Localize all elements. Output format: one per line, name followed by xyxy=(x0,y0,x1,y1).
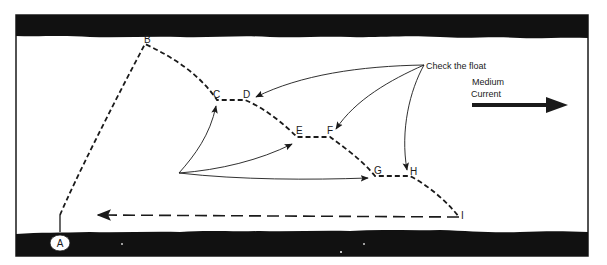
top-bank-band xyxy=(16,15,588,38)
current-label-line1: Medium xyxy=(472,77,504,87)
label-point-a: A xyxy=(57,238,64,249)
speck xyxy=(363,243,365,245)
label-point-d: D xyxy=(243,89,250,100)
bottom-bank-band xyxy=(16,230,588,256)
speck xyxy=(340,251,342,253)
label-point-e: E xyxy=(296,125,303,136)
label-point-b: B xyxy=(144,34,151,45)
label-point-h: H xyxy=(410,166,417,177)
label-point-g: G xyxy=(374,165,382,176)
label-point-i: I xyxy=(461,210,464,221)
drift-diagram: B C D E F G H I A Check the float Medium… xyxy=(0,0,607,265)
current-label-line2: Current xyxy=(471,89,502,99)
check-float-label: Check the float xyxy=(426,61,487,71)
speck xyxy=(121,243,123,245)
label-point-f: F xyxy=(327,125,333,136)
label-point-c: C xyxy=(213,89,220,100)
